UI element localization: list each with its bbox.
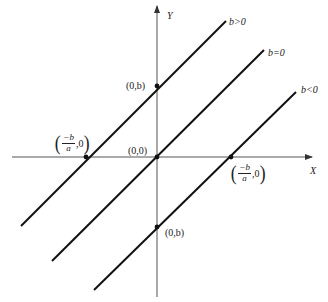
y-intercept-label-positive: (0,b) [126, 81, 145, 91]
x-intercept-label-negative: ( −ba ,0 ) [230, 162, 267, 184]
line-b-positive [21, 21, 226, 226]
fraction-denominator: a [66, 144, 71, 153]
fraction-denominator: a [242, 174, 247, 183]
fraction-tail: ,0 [252, 168, 260, 179]
origin-label: (0,0) [128, 146, 147, 156]
point-x-intercept-positive [84, 155, 89, 160]
label-b-positive: b>0 [229, 17, 246, 27]
point-x-intercept-negative [229, 155, 234, 160]
point-origin [155, 155, 160, 160]
coordinate-diagram [0, 0, 328, 302]
x-axis-label: X [310, 166, 316, 176]
fraction-tail: ,0 [76, 138, 84, 149]
x-intercept-label-positive: ( −ba ,0 ) [54, 132, 91, 154]
point-y-intercept-negative [155, 225, 160, 230]
y-intercept-label-negative: (0,b) [165, 228, 184, 238]
fraction-numerator: −b [238, 163, 251, 173]
point-y-intercept-positive [155, 84, 160, 89]
fraction-numerator: −b [62, 133, 75, 143]
label-b-zero: b=0 [268, 48, 285, 58]
y-axis-label: Y [167, 11, 173, 21]
label-b-negative: b<0 [301, 85, 318, 95]
